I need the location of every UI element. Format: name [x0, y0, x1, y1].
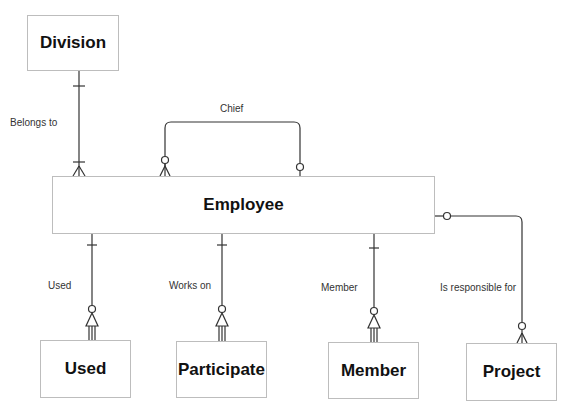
entity-used[interactable]: Used: [40, 340, 131, 398]
rel-label-works-on: Works on: [169, 280, 211, 291]
rel-label-is-responsible-for: Is responsible for: [440, 282, 516, 293]
entity-project-label: Project: [483, 362, 541, 382]
entity-division-label: Division: [40, 33, 106, 53]
entity-employee[interactable]: Employee: [52, 176, 435, 234]
entity-member[interactable]: Member: [328, 342, 419, 399]
entity-project[interactable]: Project: [466, 343, 557, 401]
rel-label-member: Member: [321, 282, 358, 293]
rel-label-used: Used: [48, 280, 71, 291]
rel-label-belongs-to: Belongs to: [10, 117, 57, 128]
entity-used-label: Used: [65, 359, 107, 379]
entity-member-label: Member: [341, 361, 406, 381]
entity-participate[interactable]: Participate: [176, 341, 267, 398]
entity-participate-label: Participate: [178, 360, 265, 380]
entity-division[interactable]: Division: [27, 15, 119, 71]
entity-employee-label: Employee: [203, 195, 283, 215]
rel-label-chief: Chief: [220, 103, 243, 114]
